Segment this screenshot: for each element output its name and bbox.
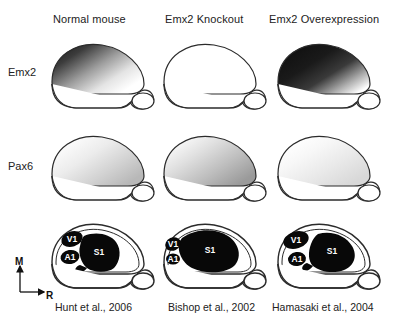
olfactory-bulb bbox=[244, 185, 266, 201]
olfactory-bulb bbox=[132, 185, 154, 201]
area-label-v1: V1 bbox=[291, 235, 302, 245]
area-label-v1: V1 bbox=[168, 239, 179, 249]
olfactory-bulb bbox=[358, 93, 380, 109]
axis-label-medial: M bbox=[15, 256, 23, 267]
area-label-v1: V1 bbox=[67, 234, 78, 244]
area-label-s1: S1 bbox=[327, 246, 338, 256]
area-label-s1: S1 bbox=[94, 247, 105, 257]
row-label-pax6: Pax6 bbox=[8, 160, 33, 172]
brain-emx2-knockout bbox=[152, 36, 270, 120]
area-label-a1: A1 bbox=[168, 254, 179, 264]
brain-pax6-overexpression bbox=[266, 128, 384, 212]
areamap-overexpression: V1 A1 S1 bbox=[266, 216, 384, 300]
olfactory-bulb bbox=[244, 93, 266, 109]
column-header-overexpression: Emx2 Overexpression bbox=[269, 13, 379, 25]
brain-pax6-knockout bbox=[152, 128, 270, 212]
citation-overexpression: Hamasaki et al., 2004 bbox=[272, 301, 374, 313]
olfactory-bulb bbox=[358, 185, 380, 201]
areamap-knockout: V1 A1 S1 bbox=[152, 216, 270, 300]
citation-knockout: Bishop et al., 2002 bbox=[168, 301, 255, 313]
column-header-knockout: Emx2 Knockout bbox=[165, 13, 243, 25]
area-label-s1: S1 bbox=[205, 245, 216, 255]
cortex-shape bbox=[164, 44, 256, 94]
cortex-shape bbox=[164, 136, 256, 186]
olfactory-bulb bbox=[132, 93, 154, 109]
cortex-shape bbox=[278, 136, 370, 186]
olfactory-bulb bbox=[132, 273, 154, 289]
cortex-shape bbox=[278, 44, 370, 94]
area-label-a1: A1 bbox=[292, 254, 303, 264]
row-label-emx2: Emx2 bbox=[8, 66, 36, 78]
cortex-shape bbox=[52, 136, 144, 186]
brain-emx2-normal bbox=[40, 36, 158, 120]
axis-label-rostral: R bbox=[46, 290, 53, 301]
olfactory-bulb bbox=[358, 273, 380, 289]
cortex-shape bbox=[52, 44, 144, 94]
column-header-normal: Normal mouse bbox=[53, 13, 126, 25]
citation-normal: Hunt et al., 2006 bbox=[55, 301, 132, 313]
brain-emx2-overexpression bbox=[266, 36, 384, 120]
figure-panel: Normal mouse Emx2 Knockout Emx2 Overexpr… bbox=[0, 0, 394, 325]
brain-pax6-normal bbox=[40, 128, 158, 212]
olfactory-bulb bbox=[244, 273, 266, 289]
